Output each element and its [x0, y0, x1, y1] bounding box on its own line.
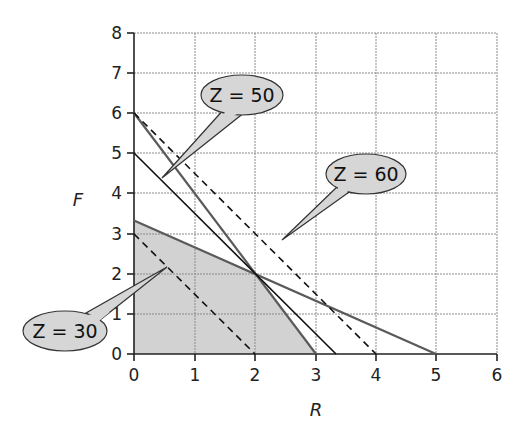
svg-text:5: 5 — [431, 365, 442, 385]
svg-text:7: 7 — [111, 63, 122, 83]
svg-text:6: 6 — [111, 103, 122, 123]
svg-text:5: 5 — [111, 143, 122, 163]
svg-text:3: 3 — [311, 365, 322, 385]
svg-text:4: 4 — [371, 365, 382, 385]
lp-chart: 8 7 6 5 4 3 2 1 0 0 1 2 3 4 5 6 F R Z = … — [0, 0, 517, 440]
svg-text:6: 6 — [492, 365, 503, 385]
svg-text:Z = 60: Z = 60 — [333, 163, 398, 185]
svg-text:4: 4 — [111, 183, 122, 203]
svg-text:2: 2 — [111, 264, 122, 284]
svg-text:8: 8 — [111, 23, 122, 43]
svg-text:2: 2 — [250, 365, 261, 385]
y-tick-labels: 8 7 6 5 4 3 2 1 0 — [111, 23, 122, 364]
svg-text:3: 3 — [111, 224, 122, 244]
svg-text:1: 1 — [190, 365, 201, 385]
svg-text:0: 0 — [111, 344, 122, 364]
callout-z60: Z = 60 — [282, 154, 406, 240]
svg-text:Z = 30: Z = 30 — [32, 320, 97, 342]
y-axis-label: F — [73, 189, 84, 210]
feasible-region — [134, 221, 316, 355]
x-tick-labels: 0 1 2 3 4 5 6 — [129, 365, 503, 385]
callout-z50: Z = 50 — [162, 75, 283, 178]
x-axis-label: R — [310, 399, 323, 420]
svg-text:Z = 50: Z = 50 — [209, 84, 274, 106]
svg-text:0: 0 — [129, 365, 140, 385]
